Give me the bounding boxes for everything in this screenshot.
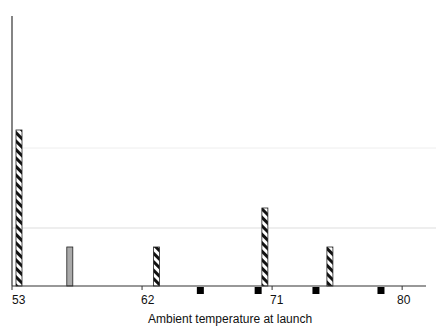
axes [12,16,426,290]
gray-bar [67,247,73,286]
marker-square [377,287,384,294]
x-axis-label: Ambient temperature at launch [148,312,312,326]
x-tick-80: 80 [397,293,410,307]
marker-square [197,287,204,294]
temperature-chart [0,0,436,333]
hatched-bar [327,247,333,286]
markers [197,287,385,294]
marker-square [312,287,319,294]
hatched-bar [154,247,160,286]
bars [16,130,333,286]
x-tick-53: 53 [12,293,25,307]
x-tick-71: 71 [270,293,283,307]
hatched-bar [262,208,268,286]
gridlines [12,148,436,228]
hatched-bar [16,130,22,286]
marker-square [255,287,262,294]
x-tick-62: 62 [141,293,154,307]
